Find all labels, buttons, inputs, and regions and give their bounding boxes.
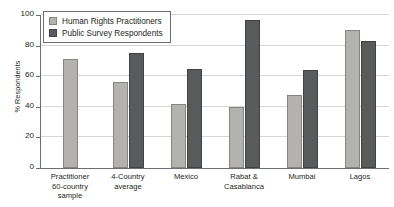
bar [287,95,302,168]
legend: Human Rights PractitionersPublic Survey … [43,11,171,43]
x-tick-label: Mexico [157,172,215,182]
y-tick: 100 [8,10,34,20]
legend-swatch-icon [49,17,57,25]
legend-item: Public Survey Respondents [49,27,163,39]
x-tick-label: 4-Countryaverage [99,172,157,191]
y-tick: 80 [8,41,34,51]
bar [63,59,78,168]
bar [345,30,360,168]
y-tick-label: 60 [8,71,34,79]
legend-label: Human Rights Practitioners [62,17,162,26]
x-tick-label: Practitioner60-country sample [41,172,99,201]
y-tick: 60 [8,71,34,81]
bar [129,53,144,168]
x-tick-label-line: 60-country sample [41,182,99,201]
bar-group [287,15,318,168]
bar [245,20,260,168]
x-tick-label-line: Practitioner [41,172,99,182]
bar [113,82,128,168]
y-tick: 20 [8,132,34,142]
bar [303,70,318,168]
bar [361,41,376,168]
legend-item: Human Rights Practitioners [49,15,163,27]
y-axis-line [40,15,41,168]
y-tick-label: 100 [8,10,34,18]
gridline [41,75,389,76]
x-axis-line [41,168,389,169]
bar [187,69,202,168]
x-tick-label-line: Lagos [331,172,389,182]
x-tick-label: Rabat &Casablanca [215,172,273,191]
y-tick-label: 40 [8,102,34,110]
y-axis-title: % Respondents [13,37,22,137]
bar-group [229,15,260,168]
x-tick-label-line: 4-Country [99,172,157,182]
bar-group [171,15,202,168]
x-tick-label-line: Mumbai [273,172,331,182]
bar-chart: % Respondents 020406080100 Practitioner6… [0,0,394,207]
gridline [41,136,389,137]
legend-label: Public Survey Respondents [62,29,163,38]
bar [171,104,186,168]
y-tick-label: 80 [8,41,34,49]
y-tick-label: 20 [8,132,34,140]
bar-group [345,15,376,168]
bar [229,107,244,168]
x-tick-label: Mumbai [273,172,331,182]
legend-swatch-icon [49,29,57,37]
y-tick: 40 [8,102,34,112]
x-tick-label-line: Rabat & [215,172,273,182]
x-tick-label-line: Casablanca [215,182,273,192]
y-tick-label: 0 [8,163,34,171]
x-tick-label: Lagos [331,172,389,182]
gridline [41,45,389,46]
x-tick-label-line: average [99,182,157,192]
gridline [41,106,389,107]
x-tick-label-line: Mexico [157,172,215,182]
y-tick: 0 [8,163,34,173]
